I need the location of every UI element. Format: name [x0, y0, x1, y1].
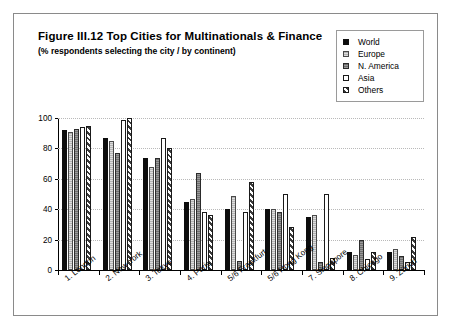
bar-world	[62, 130, 67, 270]
bar-world	[225, 209, 230, 270]
x-tick-mark	[180, 270, 181, 275]
title-block: Figure III.12 Top Cities for Multination…	[38, 30, 322, 56]
x-tick-mark	[424, 270, 425, 275]
x-tick-mark	[58, 270, 59, 275]
y-tick-label: 80	[26, 144, 52, 153]
legend-swatch-world-icon	[343, 39, 349, 45]
plot-area	[58, 118, 424, 270]
legend-item-world: World	[343, 36, 419, 48]
x-tick-mark	[383, 270, 384, 275]
bar-group	[184, 118, 213, 270]
legend-label-asia: Asia	[358, 74, 374, 82]
legend-swatch-others-icon	[343, 87, 349, 93]
bar-n-america	[196, 173, 201, 270]
bar-asia	[161, 138, 166, 270]
bar-series-container	[58, 118, 424, 270]
bar-world	[184, 202, 189, 270]
legend-swatch-asia-icon	[343, 75, 349, 81]
bar-others	[86, 126, 91, 270]
bar-group	[143, 118, 172, 270]
bar-group	[387, 118, 416, 270]
bar-group	[347, 118, 376, 270]
legend-swatch-n-america-icon	[343, 63, 349, 69]
legend-swatch-europe-icon	[343, 51, 349, 57]
legend-item-others: Others	[343, 84, 419, 96]
bar-world	[387, 252, 392, 270]
chart-legend: World Europe N. America Asia Others	[336, 30, 424, 102]
x-tick-mark	[302, 270, 303, 275]
bar-world	[103, 138, 108, 270]
legend-label-n-america: N. America	[358, 62, 399, 70]
bar-asia	[121, 120, 126, 270]
x-tick-mark	[99, 270, 100, 275]
bar-europe	[190, 199, 195, 270]
legend-label-others: Others	[358, 86, 383, 94]
bar-europe	[68, 132, 73, 270]
bar-group	[62, 118, 91, 270]
bar-others	[127, 118, 132, 270]
legend-item-asia: Asia	[343, 72, 419, 84]
page-title: Figure III.12 Top Cities for Multination…	[38, 30, 322, 42]
y-tick-label: 20	[26, 235, 52, 244]
legend-label-world: World	[358, 38, 380, 46]
y-tick-label: 60	[26, 174, 52, 183]
x-tick-mark	[221, 270, 222, 275]
y-tick-label: 100	[26, 114, 52, 123]
x-tick-mark	[343, 270, 344, 275]
bar-group	[103, 118, 132, 270]
bar-group	[265, 118, 294, 270]
bar-europe	[149, 167, 154, 270]
y-tick-label: 40	[26, 205, 52, 214]
bar-n-america	[155, 158, 160, 270]
y-tick-label: 0	[26, 266, 52, 275]
x-tick-mark	[261, 270, 262, 275]
bar-asia	[80, 127, 85, 270]
bar-europe	[231, 196, 236, 270]
figure-frame: Figure III.12 Top Cities for Multination…	[13, 13, 438, 316]
chart-subtitle: (% respondents selecting the city / by c…	[38, 46, 322, 56]
bar-world	[143, 158, 148, 270]
bar-europe	[109, 141, 114, 270]
bar-n-america	[74, 129, 79, 270]
bar-n-america	[115, 153, 120, 270]
bar-europe	[271, 209, 276, 270]
bar-europe	[312, 215, 317, 270]
bar-group	[225, 118, 254, 270]
legend-item-europe: Europe	[343, 48, 419, 60]
bar-others	[167, 148, 172, 270]
legend-label-europe: Europe	[358, 50, 385, 58]
bar-world	[265, 209, 270, 270]
x-tick-mark	[139, 270, 140, 275]
legend-item-n-america: N. America	[343, 60, 419, 72]
bar-n-america	[277, 212, 282, 270]
